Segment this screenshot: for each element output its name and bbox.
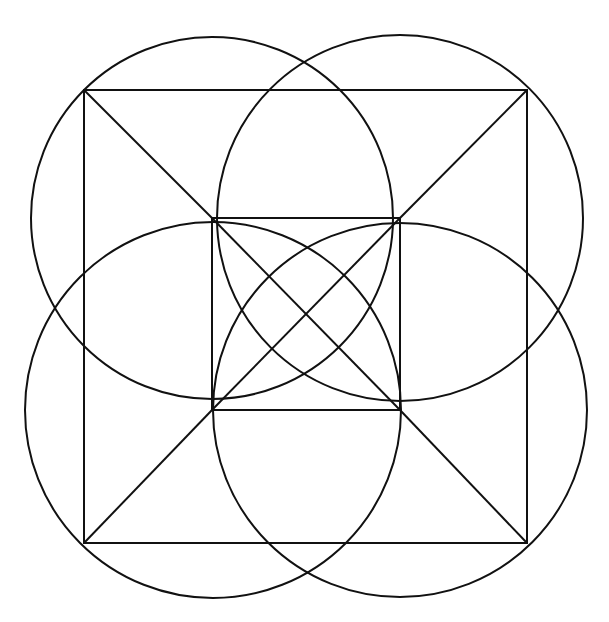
geometric-diagram xyxy=(0,0,609,622)
background xyxy=(0,0,609,622)
